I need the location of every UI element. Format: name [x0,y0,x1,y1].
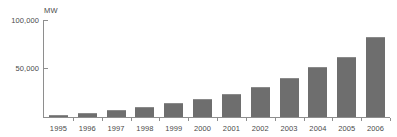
x-axis-label-2006: 2006 [361,124,390,133]
x-axis-tick-mark-1997 [131,118,132,121]
x-axis-tick-mark-2004 [332,118,333,121]
x-axis-tick-mark-2003 [304,118,305,121]
bar-2002 [251,20,270,117]
x-axis-label-1998: 1998 [131,124,160,133]
bar-fill-1996 [78,113,97,117]
y-axis-tick-label-50000: 50,000 [15,64,39,73]
bar-fill-2003 [280,78,299,117]
x-axis-label-2000: 2000 [188,124,217,133]
bar-fill-1995 [49,115,68,117]
bar-2006 [366,20,385,117]
x-axis-label-2001: 2001 [217,124,246,133]
bar-2005 [337,20,356,117]
x-axis-tick-mark-2001 [246,118,247,121]
bar-1998 [135,20,154,117]
bar-1995 [49,20,68,117]
x-axis-tick-mark-1999 [188,118,189,121]
x-axis-tick-mark-2000 [217,118,218,121]
bar-fill-2000 [193,99,212,117]
x-axis-tick-mark-1995 [73,118,74,121]
bar-fill-2001 [222,94,241,117]
bar-1996 [78,20,97,117]
bar-fill-1999 [164,103,183,117]
x-axis-label-1996: 1996 [73,124,102,133]
bar-chart: MW 100,000 50,000 1995199619971998199920… [0,0,397,137]
y-axis-tick-label-100000: 100,000 [11,16,39,25]
x-axis-label-1995: 1995 [44,124,73,133]
x-axis-tick-mark-1996 [102,118,103,121]
bar-1997 [107,20,126,117]
bar-fill-1997 [107,110,126,117]
bar-2001 [222,20,241,117]
plot-area [44,20,390,117]
bar-2004 [308,20,327,117]
x-axis-label-2003: 2003 [275,124,304,133]
x-axis-tick-mark-2005 [361,118,362,121]
x-axis-label-2004: 2004 [304,124,333,133]
x-axis-label-2002: 2002 [246,124,275,133]
bar-1999 [164,20,183,117]
x-axis-tick-mark-2002 [275,118,276,121]
bar-2003 [280,20,299,117]
y-axis-unit-label: MW [44,6,58,15]
bar-fill-2006 [366,37,385,117]
x-axis-label-2005: 2005 [332,124,361,133]
x-axis-label-1997: 1997 [102,124,131,133]
bar-fill-2005 [337,57,356,117]
x-axis-tick-mark-2006 [390,118,391,121]
x-axis-label-1999: 1999 [159,124,188,133]
x-axis-tick-mark-1998 [159,118,160,121]
bar-fill-2004 [308,67,327,117]
y-axis-label-column: 100,000 50,000 [0,0,39,137]
bar-fill-1998 [135,107,154,117]
bar-fill-2002 [251,87,270,117]
bar-2000 [193,20,212,117]
